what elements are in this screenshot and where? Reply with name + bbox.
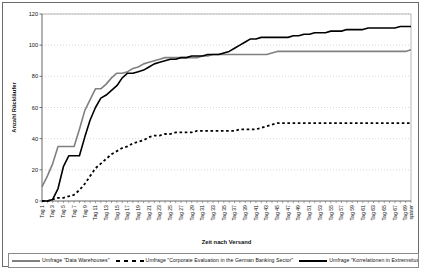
legend-label-data-warehouses: Umfrage "Data Warehouses" bbox=[42, 258, 110, 263]
legend-label-corporate-evaluation: Umfrage "Corporate Evaluation in the Ger… bbox=[146, 258, 294, 263]
x-tick-label: Tag 65 bbox=[381, 205, 387, 221]
x-tick-label: Tag 25 bbox=[167, 205, 173, 221]
x-tick-label: Tag 53 bbox=[317, 205, 323, 221]
series-line-1 bbox=[42, 123, 411, 201]
series-line-2 bbox=[42, 26, 411, 201]
y-tick-label: 120 bbox=[29, 11, 38, 17]
x-tick-label: Tag 49 bbox=[295, 205, 301, 221]
x-tick-label: Tag 31 bbox=[199, 205, 205, 221]
x-tick-label: Tag 45 bbox=[274, 205, 280, 221]
x-tick-label: Tag 51 bbox=[306, 205, 312, 221]
x-tick-label: Tag 19 bbox=[135, 205, 141, 221]
x-tick-label: Tag 37 bbox=[231, 205, 237, 221]
x-tick-label: Tag 41 bbox=[253, 205, 259, 221]
x-tick-label: Tag 23 bbox=[156, 205, 162, 221]
chart-legend: Umfrage "Data Warehouses" Umfrage "Corpo… bbox=[8, 253, 419, 268]
y-tick-label: 80 bbox=[32, 73, 38, 79]
x-tick-label: Tag 57 bbox=[338, 205, 344, 221]
legend-item-corporate-evaluation: Umfrage "Corporate Evaluation in the Ger… bbox=[116, 257, 294, 264]
x-tick-label: Tag 7 bbox=[71, 205, 77, 218]
x-tick-label: Tag 35 bbox=[221, 205, 227, 221]
x-tick-label: Tag 5 bbox=[60, 205, 66, 218]
y-tick-label: 0 bbox=[35, 198, 38, 204]
x-tick-label: Tag 27 bbox=[178, 205, 184, 221]
y-tick-label: 60 bbox=[32, 105, 38, 111]
x-tick-label: Tag 33 bbox=[210, 205, 216, 221]
chart-screenshot: 020406080100120Anzahl RückläuferTag 1Tag… bbox=[0, 0, 421, 270]
x-tick-label: Tag 67 bbox=[392, 205, 398, 221]
x-tick-label: Tag 61 bbox=[360, 205, 366, 221]
y-tick-label: 100 bbox=[29, 42, 38, 48]
x-tick-label: Tag 1 bbox=[39, 205, 45, 218]
x-tick-label: Tag 13 bbox=[103, 205, 109, 221]
legend-label-korrelationen: Umfrage "Korrelationen in Extremsituatio… bbox=[329, 258, 419, 263]
legend-swatch-solid-black-icon bbox=[299, 257, 327, 264]
x-tick-label: Tag 29 bbox=[189, 205, 195, 221]
legend-item-korrelationen: Umfrage "Korrelationen in Extremsituatio… bbox=[299, 257, 419, 264]
legend-item-data-warehouses: Umfrage "Data Warehouses" bbox=[12, 257, 110, 264]
x-tick-label: Tag 59 bbox=[349, 205, 355, 221]
x-tick-label: Tag 63 bbox=[370, 205, 376, 221]
x-tick-label: Tag 43 bbox=[263, 205, 269, 221]
x-tick-label: Tag 17 bbox=[124, 205, 130, 221]
x-tick-label: Tag 47 bbox=[285, 205, 291, 221]
chart-outer-frame: 020406080100120Anzahl RückläuferTag 1Tag… bbox=[2, 2, 419, 267]
y-tick-label: 40 bbox=[32, 136, 38, 142]
x-tick-label: Tag 21 bbox=[146, 205, 152, 221]
x-tick-label: Tag 15 bbox=[114, 205, 120, 221]
x-tick-label: Tag 3 bbox=[49, 205, 55, 218]
x-tick-label: Tag 55 bbox=[328, 205, 334, 221]
line-chart: 020406080100120Anzahl RückläuferTag 1Tag… bbox=[6, 6, 421, 249]
legend-swatch-dotted-icon bbox=[116, 257, 144, 264]
x-tick-label: Tag 9 bbox=[82, 205, 88, 218]
y-tick-label: 20 bbox=[32, 167, 38, 173]
x-tick-label: Tag 39 bbox=[242, 205, 248, 221]
x-tick-label: später bbox=[408, 205, 414, 220]
plot-area-container: 020406080100120Anzahl RückläuferTag 1Tag… bbox=[6, 6, 421, 249]
y-axis-title: Anzahl Rückläufer bbox=[11, 81, 17, 132]
x-axis-title: Zeit nach Versand bbox=[202, 239, 252, 245]
x-tick-label: Tag 11 bbox=[92, 205, 98, 220]
legend-swatch-solid-gray-icon bbox=[12, 257, 40, 264]
